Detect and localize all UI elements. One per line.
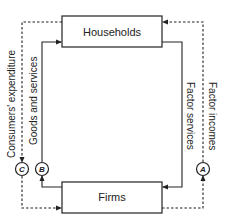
consumers-expenditure-label: Consumers' expenditure [6,49,17,158]
node-c: C [16,163,29,176]
circular-flow-diagram: Households Firms C B A Consumers' expend… [0,0,226,222]
firms-box: Firms [62,182,162,213]
node-b-label: B [39,165,45,174]
factor-services-flow [162,42,182,187]
node-a: A [197,163,210,176]
factor-services-label: Factor services [185,82,196,150]
factor-incomes-label: Factor incomes [207,82,218,150]
households-box: Households [62,16,162,47]
node-a-label: A [199,165,206,174]
node-c-label: C [19,165,25,174]
households-label: Households [83,26,142,38]
node-b: B [36,163,49,176]
firms-label: Firms [98,191,126,203]
goods-and-services-label: Goods and services [28,57,39,145]
